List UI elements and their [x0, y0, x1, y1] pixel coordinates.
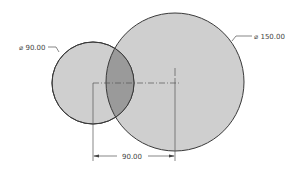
- small-diameter-dimension[interactable]: ⌀ 90.00: [19, 44, 45, 52]
- arrow-right-icon: [169, 155, 175, 158]
- large-diameter-dimension[interactable]: ⌀ 150.00: [254, 33, 285, 41]
- arrow-left-icon: [93, 155, 99, 158]
- center-distance-dimension[interactable]: 90.00: [122, 153, 142, 161]
- sketch-canvas: 90.00 ⌀ 90.00 ⌀ 150.00: [0, 0, 300, 174]
- large-diameter-leader: [232, 36, 236, 41]
